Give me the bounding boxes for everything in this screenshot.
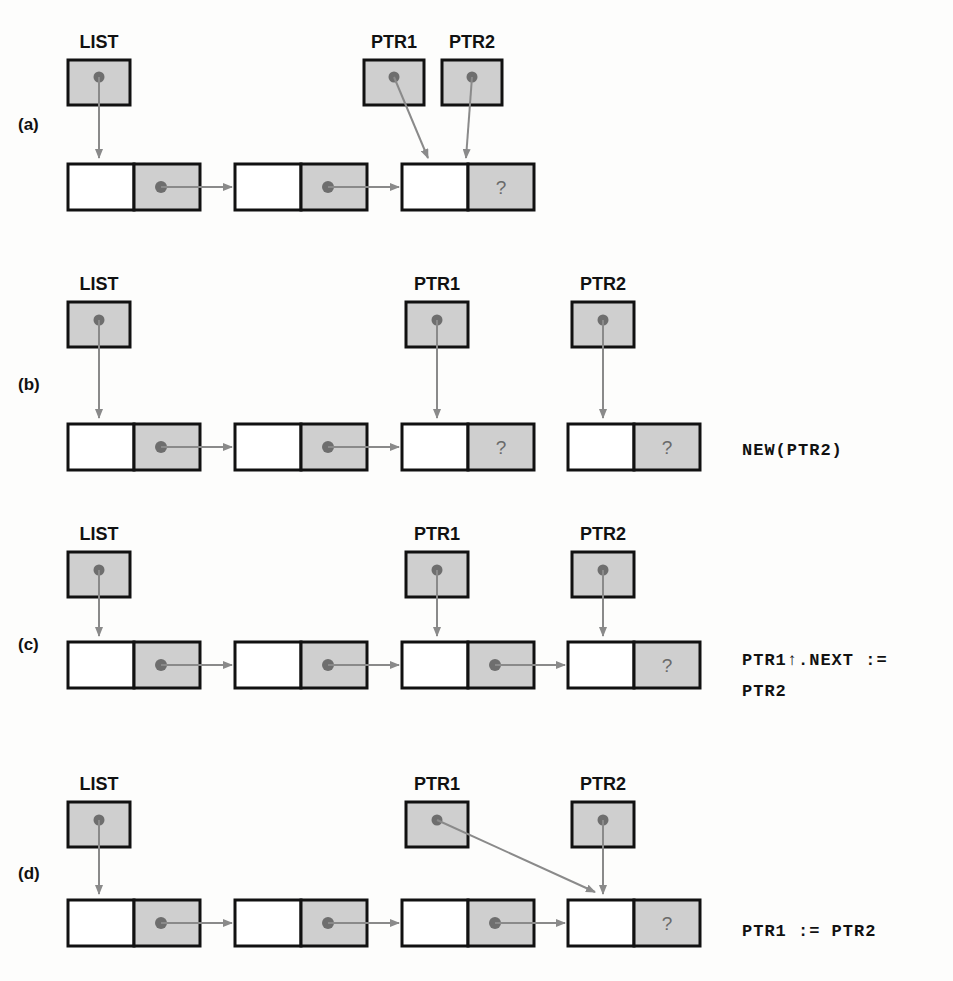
panel-c: (c) LIST PTR1 PTR2 (18, 524, 888, 701)
panel-d-label: (d) (18, 864, 40, 883)
panel-a-ptr1-label: PTR1 (371, 32, 417, 52)
panel-d-node-1 (68, 900, 232, 946)
linked-list-diagram: (a) LIST PTR1 PTR2 (0, 0, 953, 981)
panel-b-node-4: ? (568, 424, 700, 470)
panel-d-ptr2-label: PTR2 (580, 774, 626, 794)
panel-b-ptr1-label: PTR1 (414, 274, 460, 294)
panel-d: (d) LIST PTR1 PTR2 (18, 774, 876, 946)
panel-d-ptr1-label: PTR1 (414, 774, 460, 794)
panel-a-node-3: ? (402, 164, 534, 210)
panel-b-list-label: LIST (80, 274, 119, 294)
panel-c-node-3 (402, 642, 565, 688)
panel-b-ptr2-label: PTR2 (580, 274, 626, 294)
panel-b-node-4-unknown: ? (662, 437, 673, 458)
panel-b-code: NEW(PTR2) (742, 441, 843, 460)
panel-a-label: (a) (18, 115, 39, 134)
panel-a-ptr2-label: PTR2 (449, 32, 495, 52)
panel-d-node-4: ? (568, 900, 700, 946)
panel-c-label: (c) (18, 635, 39, 654)
panel-c-ptr2-label: PTR2 (580, 524, 626, 544)
panel-a-node-1 (68, 164, 232, 210)
panel-a-node-3-unknown: ? (496, 177, 507, 198)
panel-a-list-label: LIST (80, 32, 119, 52)
panel-b-label: (b) (18, 375, 40, 394)
panel-d-code: PTR1 := PTR2 (742, 922, 876, 941)
panel-a-node-2 (235, 164, 399, 210)
panel-b: (b) LIST PTR1 PTR2 ? (18, 274, 843, 470)
panel-d-node-2 (235, 900, 399, 946)
panel-c-node-2 (235, 642, 399, 688)
panel-b-node-2 (235, 424, 399, 470)
panel-b-node-3-unknown: ? (496, 437, 507, 458)
panel-c-node-4-unknown: ? (662, 655, 673, 676)
panel-a: (a) LIST PTR1 PTR2 (18, 32, 534, 210)
panel-c-ptr1-label: PTR1 (414, 524, 460, 544)
panel-c-code-line-1: PTR1↑.NEXT := (742, 651, 888, 670)
panel-d-list-label: LIST (80, 774, 119, 794)
panel-c-list-label: LIST (80, 524, 119, 544)
figure-canvas: (a) LIST PTR1 PTR2 (0, 0, 953, 981)
panel-c-node-4: ? (568, 642, 700, 688)
panel-c-code-line-2: PTR2 (742, 682, 787, 701)
panel-d-node-4-unknown: ? (662, 913, 673, 934)
panel-b-node-3: ? (402, 424, 534, 470)
panel-d-node-3 (402, 900, 565, 946)
panel-b-node-1 (68, 424, 232, 470)
panel-c-node-1 (68, 642, 232, 688)
